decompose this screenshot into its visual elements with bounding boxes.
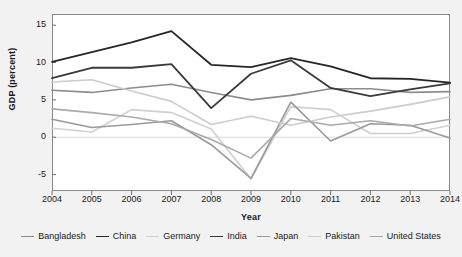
- x-tick-label: 2005: [72, 194, 112, 204]
- x-tick-label: 2008: [191, 194, 231, 204]
- legend-label: Bangladesh: [38, 231, 86, 241]
- legend-label: China: [113, 231, 137, 241]
- legend-line-swatch: [370, 236, 383, 237]
- legend-label: United States: [387, 231, 441, 241]
- legend-item-germany[interactable]: Germany: [146, 231, 200, 241]
- series-line-japan: [52, 102, 450, 178]
- legend-line-swatch: [21, 236, 34, 237]
- y-tick-label: 15: [20, 19, 46, 29]
- series-line-germany: [52, 107, 450, 179]
- x-tick-label: 2014: [430, 194, 462, 204]
- y-axis-label: GDP (percent): [7, 39, 17, 119]
- legend-item-bangladesh[interactable]: Bangladesh: [21, 231, 86, 241]
- chart-legend: BangladeshChinaGermanyIndiaJapanPakistan…: [0, 231, 462, 241]
- chart-figure: GDP (percent) Year 151050-5 200420052006…: [0, 0, 462, 257]
- x-tick-label: 2009: [231, 194, 271, 204]
- legend-label: Pakistan: [325, 231, 360, 241]
- legend-line-swatch: [257, 236, 270, 237]
- x-tick-label: 2013: [390, 194, 430, 204]
- legend-line-swatch: [146, 236, 159, 237]
- series-line-china: [52, 31, 450, 83]
- x-tick-label: 2012: [350, 194, 390, 204]
- legend-item-japan[interactable]: Japan: [257, 231, 299, 241]
- legend-item-pakistan[interactable]: Pakistan: [308, 231, 360, 241]
- legend-item-china[interactable]: China: [96, 231, 137, 241]
- y-tick-label: 10: [20, 57, 46, 67]
- legend-label: Japan: [274, 231, 299, 241]
- x-axis-label: Year: [52, 212, 450, 222]
- x-tick-label: 2007: [151, 194, 191, 204]
- legend-line-swatch: [210, 236, 223, 237]
- x-tick-label: 2004: [32, 194, 72, 204]
- x-tick-label: 2010: [271, 194, 311, 204]
- x-tick-label: 2006: [112, 194, 152, 204]
- y-tick-label: 5: [20, 94, 46, 104]
- y-tick-label: -5: [20, 169, 46, 179]
- legend-line-swatch: [308, 236, 321, 237]
- legend-item-united-states[interactable]: United States: [370, 231, 441, 241]
- y-tick-label: 0: [20, 131, 46, 141]
- legend-item-india[interactable]: India: [210, 231, 247, 241]
- legend-label: Germany: [163, 231, 200, 241]
- legend-label: India: [227, 231, 247, 241]
- x-tick-label: 2011: [311, 194, 351, 204]
- legend-line-swatch: [96, 236, 109, 237]
- series-line-pakistan: [52, 80, 450, 126]
